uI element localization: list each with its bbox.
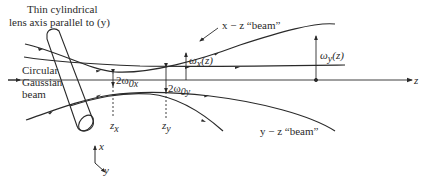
waist-x-label: 2ω0x — [116, 74, 138, 90]
wx-label: ωx(z) — [189, 54, 213, 70]
waist-y-label: 2ω0y — [168, 82, 190, 98]
lens-label-line1: Thin cylindrical — [27, 3, 98, 15]
input-label-line3: beam — [22, 88, 46, 100]
lens-label-line2: lens axis parallel to (y) — [9, 16, 110, 28]
yz-beam-label: y − z “beam” — [260, 125, 318, 137]
zx-label: zx — [110, 119, 119, 135]
yz-beam-arrows — [48, 95, 209, 123]
wy-marker — [314, 36, 317, 82]
wy-label: ωy(z) — [320, 49, 344, 65]
axis-x-label: x — [99, 140, 104, 152]
axis-y-label: y — [104, 164, 109, 176]
xz-beam-leader — [200, 28, 218, 41]
gaussian-beam-astigmatism-diagram: Thin cylindrical lens axis parallel to (… — [0, 0, 422, 176]
xz-beam-label: x − z “beam” — [222, 19, 280, 31]
input-label-line2: Gaussian — [22, 76, 62, 88]
zy-label: zy — [162, 119, 171, 135]
input-label-line1: Circular — [22, 64, 58, 76]
z-axis-label: z — [414, 74, 418, 86]
